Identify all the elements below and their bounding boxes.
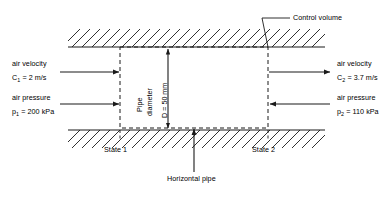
outlet-pressure-title: air pressure — [337, 94, 376, 102]
inlet-velocity-magnitude: = 2 m/s — [22, 73, 46, 82]
inlet-pressure-subscript: 1 — [16, 111, 19, 117]
outlet-velocity-value: C2 = 3.7 m/s — [337, 74, 378, 82]
inlet-pressure-magnitude: = 200 kPa — [21, 107, 54, 116]
inlet-velocity-value: C1 = 2 m/s — [12, 74, 47, 82]
horizontal-pipe-label: Horizontal pipe — [167, 175, 216, 183]
state-1-label: State 1 — [104, 146, 127, 154]
pipe-diameter-label-line1: Pipe — [135, 98, 144, 112]
control-volume-boundary — [120, 47, 268, 128]
state-2-label: State 2 — [252, 146, 275, 154]
outlet-velocity-subscript: 2 — [342, 77, 345, 83]
top-wall-hatching — [62, 29, 330, 47]
outlet-pressure-value: p2 = 110 kPa — [337, 108, 379, 116]
diagram-canvas: Control volume air velocity C1 = 2 m/s a… — [0, 0, 390, 208]
outlet-pressure-magnitude: = 110 kPa — [346, 107, 378, 116]
inlet-pressure-value: p1 = 200 kPa — [12, 108, 54, 116]
inlet-pressure-title: air pressure — [12, 94, 51, 102]
outlet-pressure-subscript: 2 — [341, 111, 344, 117]
outlet-velocity-magnitude: = 3.7 m/s — [347, 73, 377, 82]
pipe-diameter-value-label: D = 50 mm — [160, 83, 169, 118]
control-volume-label: Control volume — [293, 14, 342, 22]
inlet-velocity-subscript: 1 — [17, 77, 20, 83]
pipe-diameter-label-line2: diameter — [145, 88, 154, 116]
bottom-wall-hatching — [62, 130, 330, 148]
inlet-velocity-title: air velocity — [12, 60, 47, 68]
outlet-velocity-title: air velocity — [337, 60, 372, 68]
